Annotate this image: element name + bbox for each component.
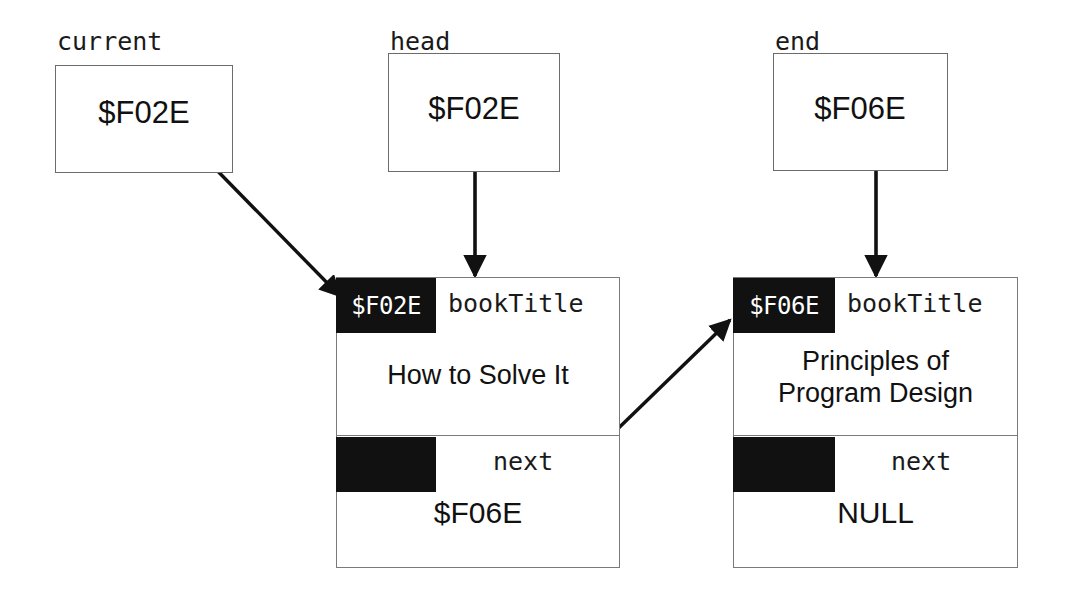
pointer-value-current: $F02E — [82, 95, 206, 131]
node2-field-name-next: next — [891, 447, 951, 476]
pointer-value-head: $F02E — [412, 91, 536, 127]
node1-field-name-next: next — [493, 447, 553, 476]
node2-field-value-next: NULL — [734, 495, 1017, 530]
pointer-value-end: $F06E — [798, 91, 922, 127]
node2-field-value-booktitle: Principles of Program Design — [734, 346, 1017, 410]
node1-next-blank-cell — [336, 437, 436, 492]
node2-address-cell: $F06E — [733, 278, 835, 333]
node1-field-value-booktitle: How to Solve It — [337, 360, 619, 392]
node1-field-value-next: $F06E — [337, 495, 619, 530]
node2-field-name-booktitle: bookTitle — [847, 289, 982, 318]
node-2-field-divider — [734, 435, 1017, 436]
pointer-label-end: end — [775, 27, 820, 56]
node1-field-name-booktitle: bookTitle — [448, 289, 583, 318]
pointer-label-current: current — [57, 27, 162, 56]
linked-list-diagram: current $F02E head $F02E end $F06E $F02E… — [0, 0, 1067, 600]
node-1-field-divider — [337, 435, 619, 436]
node1-address-cell: $F02E — [336, 278, 436, 333]
pointer-label-head: head — [390, 27, 450, 56]
node2-next-blank-cell — [733, 437, 835, 492]
